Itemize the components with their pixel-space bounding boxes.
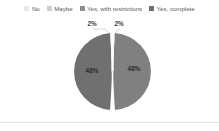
pie-plot-area: 2% 2% 48% 48% <box>0 0 219 131</box>
chart-bottom-rule <box>0 122 219 123</box>
callout-maybe: 2% <box>114 20 124 27</box>
pie-svg: 2% 2% 48% 48% <box>0 0 219 131</box>
slice-label-yes-complete: 48% <box>128 65 141 72</box>
pie-chart-frame: No Maybe Yes, with restrictions Yes, com… <box>0 0 219 131</box>
slice-label-yes-with-restrictions: 48% <box>86 67 99 74</box>
callout-no: 2% <box>87 20 97 27</box>
